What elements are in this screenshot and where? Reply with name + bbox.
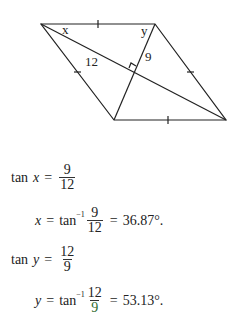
fraction: 9 12 [59, 163, 75, 192]
rhombus-diagram: x y 12 9 [0, 0, 237, 135]
angle-y-label: y [141, 23, 148, 38]
right-angle-marker [129, 63, 136, 68]
long-diagonal [41, 24, 226, 120]
fraction: 12 9 [87, 286, 103, 315]
fraction: 9 12 [87, 206, 103, 235]
fraction: 12 9 [59, 245, 75, 274]
result-y: 53.13°. [123, 293, 164, 309]
equation-tan-y: tan y = 12 9 [11, 245, 77, 274]
equation-y-result: y = tan−1 12 9 = 53.13°. [35, 286, 163, 315]
equation-x-result: x = tan−1 9 12 = 36.87°. [35, 206, 163, 235]
label-12: 12 [85, 54, 98, 69]
angle-x-label: x [62, 22, 69, 37]
equation-tan-x: tan x = 9 12 [11, 163, 77, 192]
short-diagonal [114, 24, 155, 120]
result-x: 36.87°. [123, 213, 164, 229]
label-9: 9 [145, 49, 152, 64]
